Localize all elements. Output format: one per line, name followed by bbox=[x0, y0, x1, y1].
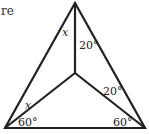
angle-label-top-left: x bbox=[62, 27, 68, 38]
segment-interior-to-bottom-right bbox=[75, 73, 145, 128]
segment-interior-to-bottom-left bbox=[5, 73, 75, 128]
geometry-figure: re x 20° x 60° 20° 60° bbox=[0, 0, 149, 134]
cropped-caption-text: re bbox=[1, 6, 14, 17]
angle-label-right-upper: 20° bbox=[103, 86, 123, 97]
angle-label-bottom-left: 60° bbox=[18, 117, 38, 128]
triangle-diagram bbox=[0, 0, 149, 134]
angle-label-left-upper: x bbox=[25, 100, 31, 111]
angle-label-bottom-right: 60° bbox=[113, 117, 133, 128]
angle-label-top-right: 20° bbox=[79, 40, 99, 51]
